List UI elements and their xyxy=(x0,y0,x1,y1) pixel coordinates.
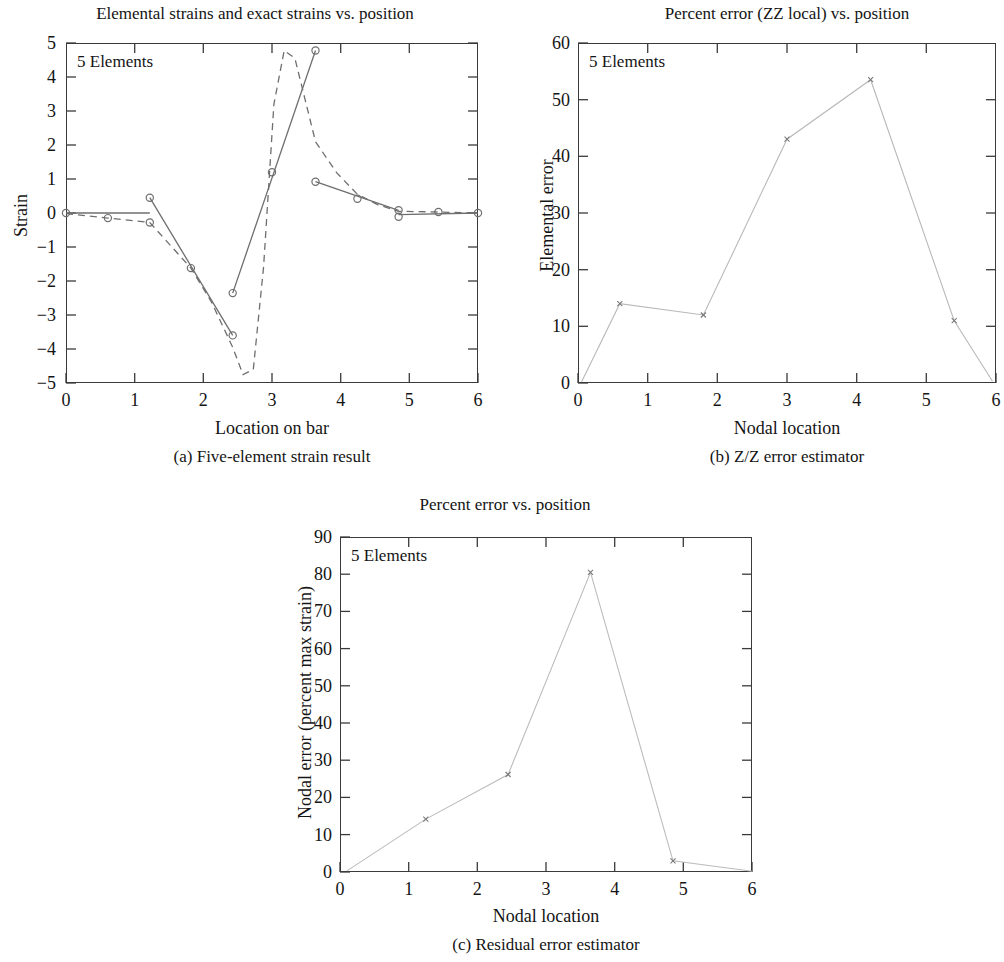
chart-b-ytick-50: 50 xyxy=(528,89,570,110)
chart-a-xtick-5: 5 xyxy=(405,390,414,411)
chart-c-markers xyxy=(423,570,675,863)
chart-a-xtick-1: 1 xyxy=(130,390,139,411)
chart-c-xtick-3: 3 xyxy=(542,879,551,900)
chart-a-xtick-4: 4 xyxy=(336,390,345,411)
chart-c-ytick-0: 0 xyxy=(290,862,332,883)
chart-c-xtick-1: 1 xyxy=(404,879,413,900)
chart-b-xtick-6: 6 xyxy=(992,390,1001,411)
chart-a-ytick-5: 5 xyxy=(26,33,56,54)
chart-c-xtick-0: 0 xyxy=(336,879,345,900)
chart-b-ytick-0: 0 xyxy=(528,373,570,394)
chart-b-series-line xyxy=(582,80,993,382)
chart-panel-b: Percent error (ZZ local) vs. position El… xyxy=(502,0,1004,490)
chart-b-ytick-20: 20 xyxy=(528,259,570,280)
chart-c-ytick-60: 60 xyxy=(290,638,332,659)
chart-a-svg xyxy=(0,0,502,490)
chart-b-xtick-1: 1 xyxy=(643,390,652,411)
chart-c-xtick-5: 5 xyxy=(679,879,688,900)
chart-c-xtick-6: 6 xyxy=(748,879,757,900)
chart-a-ytick-1: 1 xyxy=(26,169,56,190)
chart-a-ytick-m2: −2 xyxy=(18,271,56,292)
chart-b-ytick-40: 40 xyxy=(528,146,570,167)
chart-a-ytick-0: 0 xyxy=(26,203,56,224)
chart-c-series-line xyxy=(347,572,752,871)
chart-b-xtick-5: 5 xyxy=(922,390,931,411)
chart-b-x-axis-label: Nodal location xyxy=(734,418,840,439)
chart-a-ytick-m1: −1 xyxy=(18,237,56,258)
chart-a-ytick-m4: −4 xyxy=(18,339,56,360)
chart-b-x-ticks xyxy=(578,43,996,383)
chart-b-xtick-2: 2 xyxy=(713,390,722,411)
chart-c-ytick-90: 90 xyxy=(290,527,332,548)
chart-b-markers xyxy=(617,77,956,323)
chart-a-ytick-m5: −5 xyxy=(18,373,56,394)
chart-b-xtick-3: 3 xyxy=(783,390,792,411)
chart-a-xtick-3: 3 xyxy=(268,390,277,411)
chart-b-xtick-4: 4 xyxy=(852,390,861,411)
chart-a-markers xyxy=(62,47,481,339)
chart-c-x-ticks xyxy=(340,537,752,872)
chart-c-ytick-20: 20 xyxy=(290,787,332,808)
chart-b-ytick-60: 60 xyxy=(528,33,570,54)
chart-a-xtick-2: 2 xyxy=(199,390,208,411)
chart-c-ytick-50: 50 xyxy=(290,675,332,696)
chart-c-ytick-70: 70 xyxy=(290,601,332,622)
chart-c-x-axis-label: Nodal location xyxy=(493,906,599,927)
chart-b-caption: (b) Z/Z error estimator xyxy=(710,447,864,467)
chart-b-ytick-10: 10 xyxy=(528,316,570,337)
chart-a-ytick-2: 2 xyxy=(26,135,56,156)
chart-c-caption: (c) Residual error estimator xyxy=(452,935,639,955)
chart-c-ytick-80: 80 xyxy=(290,564,332,585)
chart-b-y-ticks xyxy=(578,43,996,383)
chart-a-x-axis-label: Location on bar xyxy=(215,418,329,439)
chart-c-xtick-2: 2 xyxy=(473,879,482,900)
chart-panel-c: Percent error vs. position Nodal error (… xyxy=(252,490,754,962)
chart-b-xtick-0: 0 xyxy=(574,390,583,411)
chart-c-xtick-4: 4 xyxy=(610,879,619,900)
chart-c-ytick-30: 30 xyxy=(290,750,332,771)
chart-a-series-elemental xyxy=(66,51,478,336)
chart-panel-a: Elemental strains and exact strains vs. … xyxy=(0,0,502,490)
chart-a-xtick-0: 0 xyxy=(62,390,71,411)
chart-a-ytick-4: 4 xyxy=(26,67,56,88)
chart-a-xtick-6: 6 xyxy=(474,390,483,411)
chart-b-svg xyxy=(502,0,1004,490)
chart-c-y-ticks xyxy=(340,537,752,872)
chart-c-ytick-10: 10 xyxy=(290,824,332,845)
chart-b-ytick-30: 30 xyxy=(528,203,570,224)
chart-c-ytick-40: 40 xyxy=(290,713,332,734)
chart-a-ytick-m3: −3 xyxy=(18,305,56,326)
chart-a-ytick-3: 3 xyxy=(26,101,56,122)
chart-a-caption: (a) Five-element strain result xyxy=(174,447,371,467)
